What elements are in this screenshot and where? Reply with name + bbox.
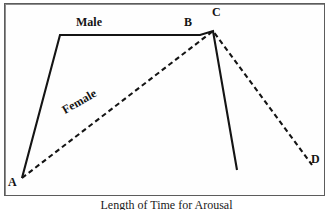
arousal-curve-plot [0,0,333,210]
figure-container: Male Female A B C D Length of Time for A… [0,0,333,210]
male-series-label: Male [76,16,102,28]
figure-caption: Length of Time for Arousal [0,198,333,210]
point-label-a: A [8,176,17,188]
point-label-d: D [311,153,320,165]
point-label-b: B [184,16,192,28]
point-label-c: C [212,6,221,18]
male-curve-solid-line [22,31,237,178]
